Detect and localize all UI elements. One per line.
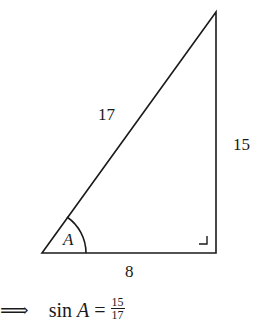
implies-arrow: ⟹ (0, 299, 29, 321)
hypotenuse-label: 17 (98, 106, 115, 123)
right-angle-marker (199, 236, 207, 244)
sine-equation: ⟹ sin A = 1517 (0, 300, 125, 325)
adjacent-label: 8 (125, 263, 134, 280)
angle-label: A (63, 231, 73, 248)
angle-variable: A (77, 299, 89, 321)
opposite-label: 15 (233, 136, 250, 153)
sin-function: sin (49, 299, 77, 321)
fraction: 1517 (111, 296, 125, 321)
equals-sign: = (89, 299, 110, 321)
denominator: 17 (111, 309, 125, 321)
